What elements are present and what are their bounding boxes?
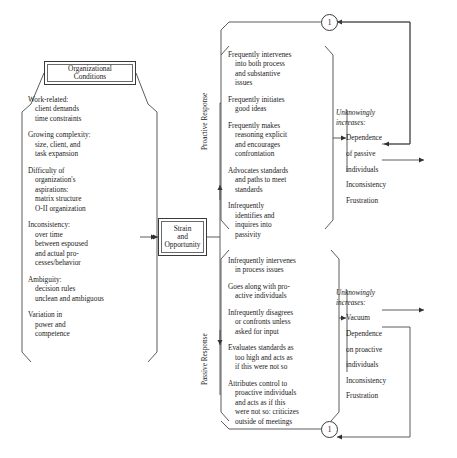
proactive-detail: passivity <box>228 230 326 239</box>
condition-title: Work-related: <box>28 95 140 104</box>
proactive-item: Infrequently identifies and inquires int… <box>228 201 326 239</box>
passive-item: Evaluates standards as too high and acts… <box>228 343 332 371</box>
strain-box-inner: Strain and Opportunity <box>161 221 204 253</box>
conseq-bottom-head1: Unknowingly <box>336 288 410 298</box>
proactive-detail: inquires into <box>228 220 326 229</box>
condition-detail: decision rules <box>28 284 140 293</box>
passive-detail: or confronts unless <box>228 317 332 326</box>
condition-detail: matrix structure <box>28 194 140 203</box>
conseq-bottom-item-dependence: Dependence on proactive individuals <box>346 329 410 370</box>
passive-detail: were not so: criticizes <box>228 407 332 416</box>
passive-item: Infrequently disagrees or confronts unle… <box>228 308 332 336</box>
conseq-top-item-frustration: Frustration <box>346 196 410 206</box>
condition-detail: O-II organization <box>28 204 140 213</box>
passive-detail: outside of meetings <box>228 417 332 426</box>
consequences-passive: Unknowingly increases: Vacuum Dependence… <box>336 288 410 401</box>
passive-item: Goes along with pro- active individuals <box>228 282 332 301</box>
proactive-title: Frequently makes <box>228 121 326 130</box>
condition-detail: unclean and ambiguous <box>28 294 140 303</box>
consequences-bottom-heading: Unknowingly increases: <box>336 288 410 307</box>
conseq-top-item-dependence: Dependence of passive individuals <box>346 133 410 174</box>
condition-detail: time constraints <box>28 114 140 123</box>
proactive-response-list: Frequently intervenes into both process … <box>228 50 326 239</box>
strain-and-opportunity-box: Strain and Opportunity <box>158 218 207 256</box>
condition-detail: and actual pro- <box>28 249 140 258</box>
condition-title: Difficulty of <box>28 166 140 175</box>
proactive-title: Frequently intervenes <box>228 50 326 59</box>
condition-title: Variation in <box>28 310 140 319</box>
proactive-response-label: Proactive Response <box>200 93 209 150</box>
consequences-bottom-items: Vacuum Dependence on proactive individua… <box>336 313 410 401</box>
passive-response-label: Passive Response <box>200 333 209 385</box>
passive-title: Infrequently intervenes <box>228 256 332 265</box>
passive-item: Attributes control to proactive individu… <box>228 379 332 426</box>
passive-detail: active individuals <box>228 291 332 300</box>
condition-title: Growing complexity: <box>28 130 140 139</box>
passive-response-list: Infrequently intervenes in process issue… <box>228 256 332 426</box>
condition-detail: size, client, and <box>28 140 140 149</box>
proactive-detail: confrontation <box>228 149 326 158</box>
condition-item: Inconsistency: over time between espouse… <box>28 220 140 267</box>
strain-line3: Opportunity <box>164 241 200 249</box>
conseq-bottom-head2: increases: <box>336 298 410 308</box>
connector-circle-bottom: 1 <box>321 421 338 438</box>
condition-detail: organization's <box>28 175 140 184</box>
proactive-item: Advocates standards and paths to meet st… <box>228 166 326 194</box>
condition-item: Variation in power and competence <box>28 310 140 338</box>
proactive-detail: and encourages <box>228 140 326 149</box>
conseq-top-item-inconsistency: Inconsistency <box>346 180 410 190</box>
condition-detail: over time <box>28 230 140 239</box>
proactive-detail: reasoning explicit <box>228 130 326 139</box>
condition-item: Work-related: client demands time constr… <box>28 95 140 123</box>
condition-detail: cesses/behavior <box>28 258 140 267</box>
consequences-top-items: Dependence of passive individuals Incons… <box>336 133 410 205</box>
conseq-top-head2: increases: <box>336 118 410 128</box>
diagram-canvas: Organizational Conditions Work-related: … <box>0 0 457 458</box>
condition-title: Inconsistency: <box>28 220 140 229</box>
condition-item: Difficulty of organization's aspirations… <box>28 166 140 213</box>
proactive-title: Frequently initiates <box>228 95 326 104</box>
passive-detail: asked for input <box>228 327 332 336</box>
condition-detail: power and <box>28 320 140 329</box>
condition-detail: task expansion <box>28 149 140 158</box>
condition-item: Ambiguity: decision rules unclean and am… <box>28 275 140 303</box>
proactive-detail: and substantive <box>228 69 326 78</box>
conseq-bottom-item-inconsistency: Inconsistency <box>346 376 410 386</box>
condition-item: Growing complexity: size, client, and ta… <box>28 130 140 158</box>
org-header-line2: Conditions <box>74 73 106 81</box>
condition-detail: between espoused <box>28 239 140 248</box>
organizational-conditions-box: Organizational Conditions <box>44 61 136 85</box>
proactive-title: Advocates standards <box>228 166 326 175</box>
proactive-detail: good ideas <box>228 104 326 113</box>
proactive-detail: into both process <box>228 59 326 68</box>
passive-title: Infrequently disagrees <box>228 308 332 317</box>
passive-detail: too high and acts as <box>228 353 332 362</box>
passive-item: Infrequently intervenes in process issue… <box>228 256 332 275</box>
passive-title: Evaluates standards as <box>228 343 332 352</box>
consequences-top-heading: Unknowingly increases: <box>336 108 410 127</box>
proactive-detail: identifies and <box>228 211 326 220</box>
passive-detail: if this were not so <box>228 362 332 371</box>
passive-detail: and acts as if this <box>228 398 332 407</box>
proactive-detail: standards <box>228 185 326 194</box>
consequences-proactive: Unknowingly increases: Dependence of pas… <box>336 108 410 205</box>
conditions-list: Work-related: client demands time constr… <box>28 95 140 339</box>
passive-detail: proactive individuals <box>228 388 332 397</box>
proactive-item: Frequently intervenes into both process … <box>228 50 326 88</box>
proactive-detail: and paths to meet <box>228 175 326 184</box>
conseq-bottom-item-frustration: Frustration <box>346 391 410 401</box>
proactive-title: Infrequently <box>228 201 326 210</box>
condition-detail: aspirations: <box>28 185 140 194</box>
conseq-top-head1: Unknowingly <box>336 108 410 118</box>
condition-title: Ambiguity: <box>28 275 140 284</box>
organizational-conditions-inner: Organizational Conditions <box>47 64 133 82</box>
connector-circle-top: 1 <box>321 14 338 31</box>
proactive-item: Frequently makes reasoning explicit and … <box>228 121 326 159</box>
proactive-detail: issues <box>228 78 326 87</box>
condition-detail: competence <box>28 329 140 338</box>
proactive-item: Frequently initiates good ideas <box>228 95 326 114</box>
condition-detail: client demands <box>28 104 140 113</box>
conseq-bottom-item-vacuum: Vacuum <box>346 313 410 323</box>
passive-detail: in process issues <box>228 265 332 274</box>
passive-title: Goes along with pro- <box>228 282 332 291</box>
